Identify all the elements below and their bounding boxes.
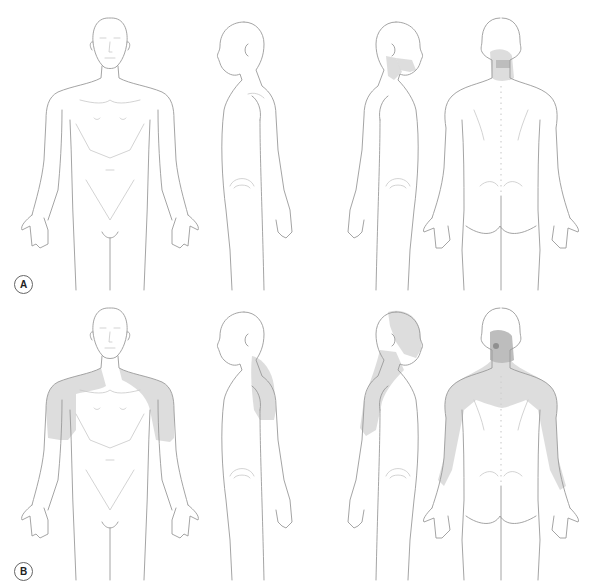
- figure-posterior-b: [440, 290, 614, 580]
- anterior-body-outline: [10, 0, 220, 290]
- left-lateral-body-outline: [330, 290, 450, 580]
- figure-left-lateral-b: [330, 290, 450, 580]
- panel-label-b: B: [14, 562, 33, 581]
- anterior-body-outline: [10, 290, 220, 580]
- panel-b: B: [0, 290, 614, 580]
- right-lateral-body-outline: [190, 290, 310, 580]
- shaded-region-left-shoulder-arm: [119, 368, 174, 442]
- figure-right-lateral-a: [190, 0, 310, 290]
- panel-a: A: [0, 0, 614, 290]
- figure-anterior-b: [10, 290, 220, 580]
- shaded-region-cervical-trigger-point: [493, 343, 499, 349]
- right-lateral-body-outline: [190, 0, 310, 290]
- figure-anterior-a: [10, 0, 220, 290]
- figure-posterior-a: [440, 0, 614, 290]
- shaded-region-upper-back-arms: [438, 360, 566, 490]
- posterior-body-outline: [440, 290, 614, 580]
- shaded-region-right-shoulder-arm: [46, 368, 106, 440]
- figure-left-lateral-a: [330, 0, 450, 290]
- posterior-body-outline: [440, 0, 614, 290]
- figure-right-lateral-b: [190, 290, 310, 580]
- left-lateral-body-outline: [330, 0, 450, 290]
- shaded-region-suboccipital: [496, 60, 510, 68]
